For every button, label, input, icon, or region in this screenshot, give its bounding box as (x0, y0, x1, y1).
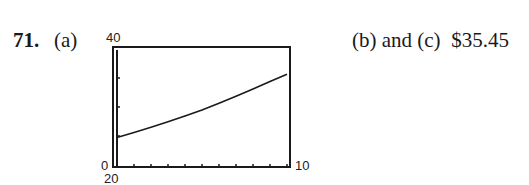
graph-frame (113, 47, 290, 167)
data-curve (117, 74, 287, 137)
calculator-graph (0, 0, 529, 185)
x-axis-dots (133, 164, 288, 166)
